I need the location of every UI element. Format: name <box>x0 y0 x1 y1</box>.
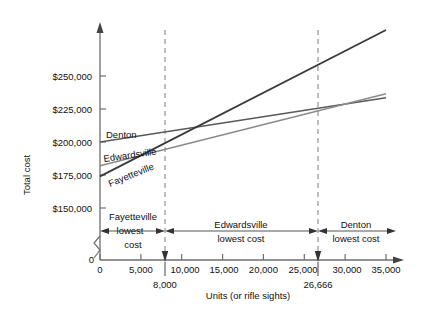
breakeven-label-26666: 26,666 <box>303 279 332 290</box>
x-tick-label-20000: 20,000 <box>249 264 278 275</box>
y-axis-tick-labels: $250,000 $225,000 $200,000 $175,000 $150… <box>52 71 94 266</box>
region-label-edwardsville-line1: Edwardsville <box>214 219 267 230</box>
breakeven-line-8000 <box>162 30 168 276</box>
region-label-edwardsville-line2: lowest cost <box>218 233 265 244</box>
x-axis-tick-labels: 0 5,000 10,000 15,000 20,000 25,000 30,0… <box>97 264 400 275</box>
x-tick-label-30000: 30,000 <box>332 264 361 275</box>
region-label-denton-line1: Denton <box>341 219 372 230</box>
x-axis-title: Units (or rifle sights) <box>206 290 290 301</box>
region-label-fayetteville-line2: lowest <box>117 225 144 236</box>
x-axis <box>100 257 404 264</box>
y-axis-break-icon <box>94 236 100 258</box>
x-axis-ticks <box>100 254 386 260</box>
region-label-denton-line2: lowest cost <box>333 233 380 244</box>
y-tick-label-150000: $150,000 <box>52 203 92 214</box>
x-tick-label-35000: 35,000 <box>371 264 400 275</box>
x-tick-label-15000: 15,000 <box>209 264 238 275</box>
chart-svg: $250,000 $225,000 $200,000 $175,000 $150… <box>0 0 428 319</box>
x-tick-label-10000: 10,000 <box>170 264 199 275</box>
region-label-fayetteville-line3: cost <box>124 239 142 250</box>
cost-comparison-chart: $250,000 $225,000 $200,000 $175,000 $150… <box>0 0 428 319</box>
x-tick-label-0: 0 <box>97 264 102 275</box>
region-label-fayetteville-line1: Fayetteville <box>109 211 157 222</box>
y-tick-label-250000: $250,000 <box>52 71 92 82</box>
x-tick-label-25000: 25,000 <box>288 264 317 275</box>
breakeven-label-8000: 8,000 <box>153 279 177 290</box>
x-tick-label-5000: 5,000 <box>129 264 153 275</box>
series-label-fayetteville: Fayetteville <box>107 161 156 189</box>
y-tick-label-225000: $225,000 <box>52 104 92 115</box>
y-tick-label-200000: $200,000 <box>52 137 92 148</box>
y-axis-title: Total cost <box>21 155 32 195</box>
y-origin-label: 0 <box>89 254 94 265</box>
y-tick-label-175000: $175,000 <box>52 170 92 181</box>
series-label-denton: Denton <box>106 129 137 140</box>
